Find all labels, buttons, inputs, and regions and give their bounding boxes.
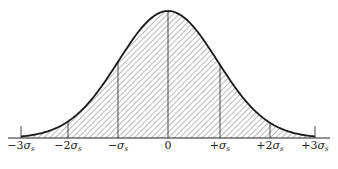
tick-label-plus-1-sigma: +σs: [210, 139, 230, 156]
tick-label-plus-2-sigma: +2σs: [256, 139, 283, 156]
tick-label-minus-3-sigma: −3σs: [7, 139, 34, 156]
sigma-lines: [21, 11, 315, 138]
tick-label-minus-1-sigma: −σs: [108, 139, 128, 156]
tick-label-plus-3-sigma: +3σs: [301, 139, 328, 156]
tick-label-minus-2-sigma: −2σs: [54, 139, 81, 156]
tick-label-zero: 0: [165, 139, 172, 156]
